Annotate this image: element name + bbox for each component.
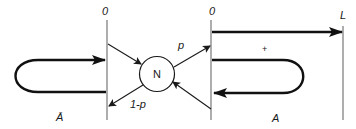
arrow-left-wall-to-node [108,44,141,64]
prob-1-p-label: 1-p [130,98,146,110]
end-wall-label: L [340,9,346,21]
plus-label: + [262,44,267,54]
right-loop-arrow [212,60,303,93]
left-loop-arrow [16,60,107,92]
right-wall-origin-label: 0 [209,5,216,17]
diagram-canvas: 0 0 L N p 1-p + A Ā [0,0,356,129]
region-a-label: A [271,112,279,124]
arrow-right-wall-to-node [173,82,211,109]
node-label: N [153,68,161,80]
region-a-bar-label: Ā [55,111,63,123]
left-wall-origin-label: 0 [102,5,109,17]
prob-p-label: p [177,39,184,51]
